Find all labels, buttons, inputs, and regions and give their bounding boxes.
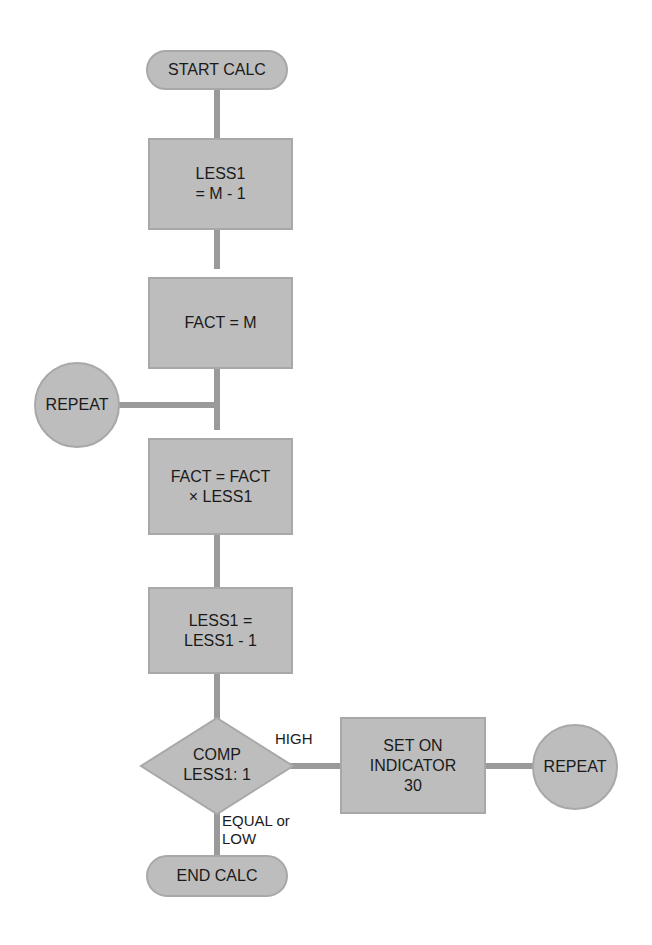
less1-init-label: LESS1 = M - 1 [195,164,245,204]
start-calc-label: START CALC [168,60,266,80]
end-calc-terminal: END CALC [146,855,288,897]
less1-dec-label: LESS1 = LESS1 - 1 [184,611,257,651]
less1-dec-process: LESS1 = LESS1 - 1 [148,587,293,674]
start-calc-terminal: START CALC [146,50,288,90]
edge-less1-to-fact [214,229,220,269]
edge-compare-to-set [290,763,346,769]
end-calc-label: END CALC [177,866,258,886]
high-edge-label: HIGH [275,730,313,748]
repeat-left-label: REPEAT [46,395,109,415]
edge-start-to-less1 [214,85,220,140]
compare-label: COMP LESS1: 1 [183,746,251,783]
repeat-left-connector: REPEAT [34,362,120,448]
fact-mult-label: FACT = FACT × LESS1 [171,467,271,507]
edge-dec-to-compare [214,673,220,720]
set-indicator-label: SET ON INDICATOR 30 [370,736,457,796]
equal-or-low-edge-label: EQUAL or LOW [222,812,290,848]
edge-repeat-left-join [118,402,218,408]
fact-init-label: FACT = M [184,313,256,333]
set-indicator-process: SET ON INDICATOR 30 [340,717,486,814]
edge-mult-to-dec [214,535,220,587]
edge-set-to-repeat-right [484,763,536,769]
less1-init-process: LESS1 = M - 1 [148,138,293,230]
repeat-right-label: REPEAT [544,757,607,777]
compare-decision-text: COMP LESS1: 1 [157,745,277,785]
fact-mult-process: FACT = FACT × LESS1 [148,438,293,535]
edge-compare-to-end [214,810,220,860]
repeat-right-connector: REPEAT [532,724,618,810]
edge-fact-to-mult [214,368,220,430]
fact-init-process: FACT = M [148,277,293,369]
